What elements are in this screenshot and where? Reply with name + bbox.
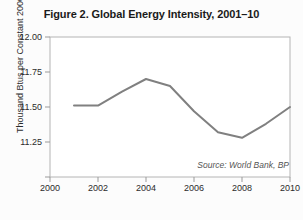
plot-frame [50, 37, 290, 177]
source-note: Source: World Bank, BP [197, 160, 289, 170]
plot-area [0, 0, 303, 220]
figure-container: Figure 2. Global Energy Intensity, 2001–… [0, 0, 303, 220]
x-tick-marks [50, 177, 290, 182]
y-tick-marks [45, 37, 50, 177]
